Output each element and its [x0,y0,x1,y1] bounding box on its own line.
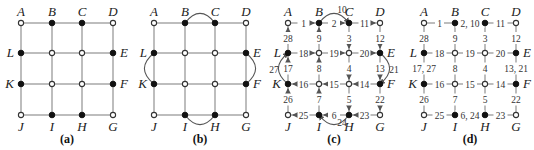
step-number: 13 [375,64,385,74]
vertex-c [79,20,85,26]
vertex-label-k: K [137,76,148,91]
step-number: 28 [283,34,293,44]
step-number: 11 [360,19,369,29]
vertex-c [212,20,218,26]
edge-traversal-label: 1 [437,19,442,29]
edge-traversal-label: 8 [453,64,458,74]
panel-caption: (d) [463,132,478,146]
vertex-d [513,20,518,25]
vertex-label-d: D [107,4,118,19]
vertex-label-l: L [409,45,417,60]
step-number: 21 [389,65,399,75]
panel-caption: (c) [327,132,340,146]
vertex-g [243,112,248,117]
vertex-interior [452,81,457,86]
vertex-label-h: H [479,119,490,134]
panel-d: 12, 1011181920161514256, 24232817, 27269… [407,4,533,146]
vertex-label-b: B [181,4,189,19]
vertex-interior [346,81,351,86]
vertex-label-f: F [386,76,396,91]
vertex-d [243,20,248,25]
vertex-label-i: I [182,119,188,134]
vertex-g [377,112,382,117]
vertex-label-k: K [271,76,282,91]
edge-traversal-label: 9 [453,34,458,44]
panel-caption: (b) [193,132,208,146]
vertex-label-l: L [6,45,14,60]
vertex-a [151,20,156,25]
edge-traversal-label: 16 [435,80,445,90]
vertex-label-a: A [149,4,158,19]
vertex-g [110,112,115,117]
step-number: 2 [332,19,337,29]
vertex-label-a: A [16,4,25,19]
vertex-d [110,20,115,25]
vertex-j [151,112,156,117]
vertex-interior [316,81,321,86]
vertex-interior [79,81,84,86]
vertex-label-a: A [419,4,428,19]
edge-traversal-label: 12 [511,34,521,44]
vertex-i [182,112,188,118]
vertex-label-i: I [316,119,322,134]
vertex-label-e: E [386,45,395,60]
step-number: 18 [299,49,309,59]
vertex-interior [452,50,457,55]
vertex-a [18,20,23,25]
vertex-interior [346,50,351,55]
vertex-label-g: G [511,119,521,134]
edge-traversal-label: 4 [483,64,488,74]
vertex-c [346,20,352,26]
edge-traversal-label: 14 [496,80,506,90]
vertex-k [421,81,427,87]
vertex-interior [482,81,487,86]
vertex-label-f: F [252,76,262,91]
step-number: 23 [360,111,370,121]
vertex-l [18,50,24,56]
vertex-f [377,81,383,87]
vertex-interior [49,50,54,55]
vertex-d [377,20,382,25]
edge-traversal-label: 25 [435,111,445,121]
vertex-label-g: G [375,119,385,134]
vertex-label-i: I [452,119,458,134]
vertex-label-b: B [48,4,56,19]
vertex-k [285,81,291,87]
vertex-label-c: C [211,4,220,19]
vertex-interior [316,50,321,55]
vertex-k [18,81,24,87]
vertex-label-l: L [139,45,147,60]
vertex-label-h: H [343,119,354,134]
step-number: 9 [317,34,322,44]
vertex-j [18,112,23,117]
vertex-interior [49,81,54,86]
vertex-b [452,20,458,26]
step-number: 14 [360,80,370,90]
edge-traversal-label: 6, 24 [461,111,480,121]
step-number: 20 [360,49,370,59]
vertex-label-j: J [285,119,292,134]
vertex-label-c: C [78,4,87,19]
vertex-b [49,20,55,26]
vertex-interior [182,81,187,86]
step-number: 12 [375,34,385,44]
vertex-a [421,20,426,25]
edge-traversal-label: 28 [419,34,429,44]
edge-traversal-label: 2, 10 [461,19,480,29]
vertex-l [151,50,157,56]
edge-traversal-label: 18 [435,49,445,59]
vertex-label-j: J [421,119,428,134]
edge-traversal-label: 7 [453,95,458,105]
vertex-j [421,112,426,117]
edge-traversal-label: 22 [511,95,521,105]
edge-traversal-label: 3 [483,34,488,44]
step-number: 25 [299,111,309,121]
vertex-f [513,81,519,87]
edge-traversal-label: 5 [483,95,488,105]
vertex-e [513,50,519,56]
step-number: 1 [301,19,306,29]
vertex-e [377,50,383,56]
edge-traversal-label: 15 [465,80,475,90]
vertex-label-h: H [76,119,87,134]
vertex-f [110,81,116,87]
